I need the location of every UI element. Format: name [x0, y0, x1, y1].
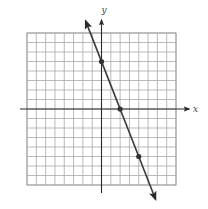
coordinate-plane: x y	[0, 0, 208, 209]
data-series	[86, 21, 156, 199]
data-point	[136, 154, 141, 159]
data-point	[99, 59, 104, 64]
x-axis-label: x	[193, 104, 198, 114]
data-point	[118, 106, 123, 111]
y-axis-label: y	[101, 5, 108, 15]
